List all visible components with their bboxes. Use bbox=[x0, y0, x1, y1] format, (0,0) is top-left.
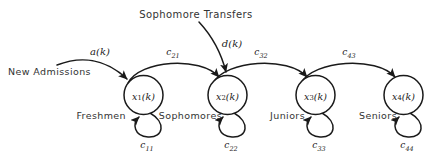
self-loop-sub-c33: 33 bbox=[317, 145, 325, 153]
self-loop-label-c22: c22 bbox=[224, 140, 237, 153]
state-node-label-x2: x2(k) bbox=[216, 90, 239, 102]
state-transition-diagram: a(k) New Admissions Sophomore Transfers … bbox=[0, 0, 436, 157]
state-node-x2[interactable]: x2(k) bbox=[208, 76, 247, 115]
state-node-x1[interactable]: x1(k) bbox=[124, 76, 163, 115]
self-loop-sub-c44: 44 bbox=[404, 145, 413, 153]
self-loop-x2 bbox=[219, 113, 245, 137]
self-loop-arrow-x1 bbox=[135, 113, 161, 137]
transition-sub-c43: 43 bbox=[346, 52, 355, 60]
input-signal-label-a: a(k) bbox=[90, 46, 110, 57]
self-loop-x3 bbox=[307, 113, 333, 137]
class-label-sophomores: Sophomores bbox=[159, 110, 222, 121]
transition-label-c32: c32 bbox=[254, 47, 267, 60]
input-signal-label-d: d(k) bbox=[222, 38, 242, 49]
state-node-x4[interactable]: x4(k) bbox=[384, 76, 423, 115]
transition-sub-c21: 21 bbox=[170, 52, 179, 60]
transition-label-c21: c21 bbox=[166, 47, 179, 60]
diagram-canvas: a(k) New Admissions Sophomore Transfers … bbox=[0, 0, 436, 157]
class-label-freshmen: Freshmen bbox=[76, 110, 126, 121]
self-loop-sub-c11: 11 bbox=[145, 145, 153, 153]
transition-sub-c32: 32 bbox=[259, 52, 267, 60]
class-label-seniors: Seniors bbox=[359, 110, 397, 121]
state-arg-x2: (k) bbox=[226, 90, 239, 101]
self-loop-arrow-x2 bbox=[219, 113, 245, 137]
self-loop-label-c44: c44 bbox=[400, 140, 413, 153]
class-label-juniors: Juniors bbox=[269, 110, 305, 121]
state-node-x3[interactable]: x3(k) bbox=[296, 76, 335, 115]
transition-label-c43: c43 bbox=[342, 47, 355, 60]
self-loop-label-c11: c11 bbox=[140, 140, 153, 153]
state-arg-x3: (k) bbox=[314, 90, 327, 101]
self-loop-sub-c22: 22 bbox=[228, 145, 237, 153]
self-loop-arrow-x4 bbox=[395, 113, 421, 137]
input-source-label-sophomore-transfers: Sophomore Transfers bbox=[139, 9, 252, 20]
self-loop-x1 bbox=[135, 113, 161, 137]
input-source-label-new-admissions: New Admissions bbox=[8, 66, 91, 77]
self-loop-label-c33: c33 bbox=[312, 140, 325, 153]
state-arg-x4: (k) bbox=[402, 90, 415, 101]
state-arg-x1: (k) bbox=[142, 90, 155, 101]
state-node-label-x3: x3(k) bbox=[304, 90, 327, 102]
self-loop-x4 bbox=[395, 113, 421, 137]
state-node-label-x4: x4(k) bbox=[392, 90, 415, 102]
state-node-label-x1: x1(k) bbox=[132, 90, 155, 102]
self-loop-arrow-x3 bbox=[307, 113, 333, 137]
